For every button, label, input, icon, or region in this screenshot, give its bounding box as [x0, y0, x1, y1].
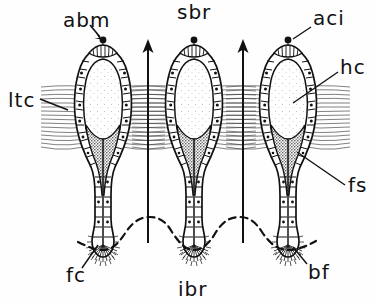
diagram-svg: abm sbr aci hc fs ltc fc bf ibr — [0, 0, 378, 304]
label-fs: fs — [348, 173, 367, 197]
label-hc: hc — [340, 55, 366, 79]
label-ibr: ibr — [178, 277, 207, 301]
label-abm: abm — [63, 8, 110, 32]
label-bf: bf — [308, 260, 330, 284]
label-sbr: sbr — [177, 0, 211, 24]
label-ltc: ltc — [8, 88, 35, 112]
figure-canvas: abm sbr aci hc fs ltc fc bf ibr — [0, 0, 378, 304]
label-fc: fc — [66, 263, 86, 287]
label-aci: aci — [313, 6, 345, 30]
